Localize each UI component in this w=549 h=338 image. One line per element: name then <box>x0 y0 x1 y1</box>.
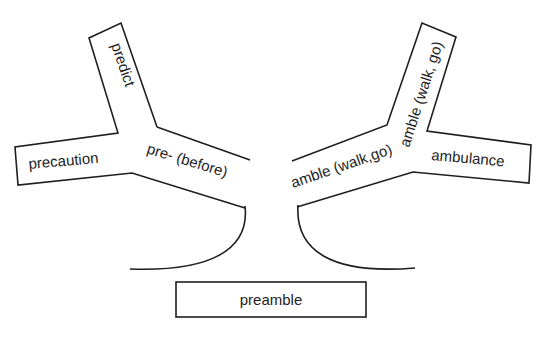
predict-label: predict <box>108 40 139 89</box>
predict-arm-outline <box>15 23 245 208</box>
pre-trunk-label: pre- (before) <box>145 140 230 181</box>
ambulance-label: ambulance <box>431 146 506 169</box>
right-base-curve <box>298 205 415 269</box>
precaution-label: precaution <box>28 149 99 172</box>
right-branch: amble (walk, go) ambulance amble (walk,g… <box>288 23 531 269</box>
preamble-label: preamble <box>240 291 303 308</box>
left-base-curve <box>130 206 245 269</box>
word-tree-diagram: predict precaution pre- (before) amble (… <box>0 0 549 338</box>
left-branch: predict precaution pre- (before) <box>15 23 250 269</box>
root-node: preamble <box>176 282 366 317</box>
